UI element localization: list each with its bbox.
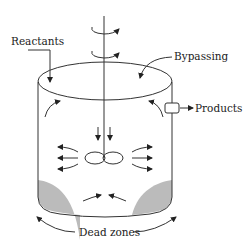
impeller-blade-right <box>103 152 123 164</box>
dead-zone-right <box>132 180 172 215</box>
dead-zone-left <box>38 180 80 240</box>
outlet-pipe <box>165 103 179 113</box>
label-dead-zones: Dead zones <box>79 227 140 238</box>
label-bypassing: Bypassing <box>174 51 228 62</box>
label-products: Products <box>195 103 242 114</box>
reactor-diagram: Reactants Bypassing Products Dead zones <box>0 0 247 247</box>
tank-top <box>38 62 172 100</box>
impeller-blade-left <box>85 152 105 164</box>
label-reactants: Reactants <box>11 36 64 47</box>
